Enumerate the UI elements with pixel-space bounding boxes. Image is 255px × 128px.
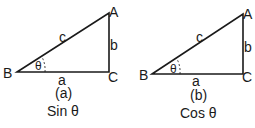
caption-a: (a) [55, 85, 72, 101]
side-b-a: b [110, 37, 118, 53]
triangle-b: B A C c b a θ (b) Cos θ [139, 6, 253, 121]
vertex-b-b: B [139, 67, 148, 83]
angle-theta-a: θ [35, 59, 42, 73]
caption-b: (b) [190, 87, 207, 103]
function-label-b: Cos θ [180, 105, 217, 121]
vertex-c-b: C [242, 69, 252, 85]
angle-arc-a [42, 57, 45, 72]
angle-arc-b [177, 59, 180, 74]
vertex-c-a: C [108, 69, 118, 85]
function-label-a: Sin θ [47, 103, 79, 119]
side-b-b: b [244, 39, 252, 55]
side-c-b: c [196, 29, 203, 45]
triangles-figure: B A C c b a θ (a) Sin θ B A C c b a θ (b… [0, 0, 255, 128]
vertex-a-b: A [243, 6, 253, 22]
side-c-a: c [59, 29, 66, 45]
vertex-b-a: B [3, 65, 12, 81]
angle-theta-b: θ [170, 62, 177, 76]
triangle-a: B A C c b a θ (a) Sin θ [3, 4, 119, 119]
vertex-a-a: A [109, 4, 119, 20]
